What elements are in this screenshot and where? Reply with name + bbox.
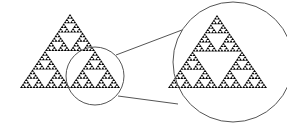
magnified-sierpinski-triangle (168, 15, 267, 88)
sierpinski-diagram (0, 0, 287, 134)
diagram-canvas (0, 0, 287, 134)
magnifier-lens-circle (66, 47, 124, 105)
main-sierpinski-triangle (20, 14, 120, 88)
magnified-view-circle (173, 2, 287, 122)
connector-line-top (116, 30, 182, 55)
connector-line-bottom (118, 96, 178, 104)
